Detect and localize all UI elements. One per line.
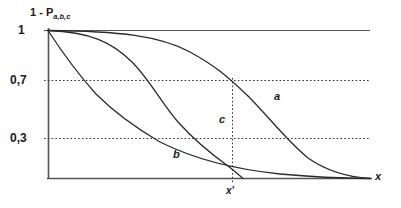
curve-label-c: c bbox=[219, 113, 225, 125]
curve-label-a: a bbox=[274, 90, 280, 102]
x-axis-title: x bbox=[375, 170, 381, 182]
curve-label-b: b bbox=[173, 148, 180, 160]
chart-figure: 1 - Pa,b,c 1 0,7 0,3 a b c x' x bbox=[0, 0, 401, 208]
y-axis-title-main: 1 - P bbox=[30, 6, 53, 18]
x-tick-label-x-prime: x' bbox=[226, 185, 234, 196]
curve-a bbox=[48, 31, 370, 179]
chart-canvas bbox=[0, 0, 401, 208]
y-axis-title: 1 - Pa,b,c bbox=[30, 6, 70, 21]
curve-b bbox=[48, 31, 370, 179]
y-tick-label-0-3: 0,3 bbox=[10, 131, 27, 145]
y-axis-title-subscript: a,b,c bbox=[53, 12, 70, 21]
y-tick-label-0-7: 0,7 bbox=[10, 73, 27, 87]
y-tick-label-1: 1 bbox=[18, 23, 25, 37]
curve-c bbox=[48, 31, 243, 179]
